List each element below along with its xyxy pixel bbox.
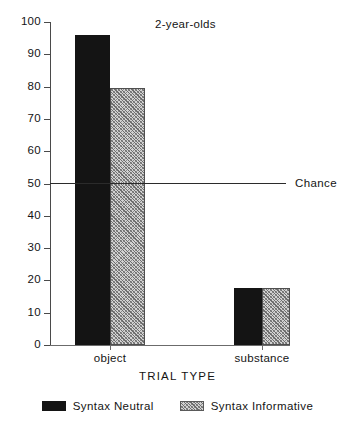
legend-label: Syntax Informative: [211, 400, 313, 412]
bar-object-syntax-neutral: [75, 35, 110, 345]
legend-item-syntax-neutral: Syntax Neutral: [42, 400, 154, 412]
x-category-label-object: object: [50, 352, 170, 364]
chance-line-label: Chance: [295, 177, 337, 189]
x-axis-line: [50, 345, 290, 346]
y-tick-label-10: 10: [5, 307, 41, 319]
chart-figure: 2-year-olds 0102030405060708090100 Chanc…: [0, 0, 355, 429]
y-tick-label-40: 40: [5, 210, 41, 222]
x-tick-substance: [262, 345, 263, 350]
legend-swatch-solid: [42, 401, 66, 411]
y-tick-label-0: 0: [5, 339, 41, 351]
legend-item-syntax-informative: Syntax Informative: [180, 400, 313, 412]
y-tick-label-90: 90: [5, 48, 41, 60]
x-tick-object: [110, 345, 111, 350]
y-tick-label-70: 70: [5, 113, 41, 125]
legend-swatch-hatched: [180, 401, 204, 411]
legend-label: Syntax Neutral: [73, 400, 154, 412]
bar-substance-syntax-neutral: [234, 288, 262, 345]
x-axis-title: TRIAL TYPE: [0, 370, 355, 382]
y-tick-label-80: 80: [5, 81, 41, 93]
x-category-label-substance: substance: [202, 352, 322, 364]
y-tick-label-30: 30: [5, 242, 41, 254]
y-tick-label-100: 100: [5, 16, 41, 28]
chart-legend: Syntax NeutralSyntax Informative: [0, 400, 355, 412]
bar-object-syntax-informative: [110, 88, 145, 345]
chance-line: [50, 183, 286, 185]
y-tick-label-50: 50: [5, 178, 41, 190]
y-tick-label-60: 60: [5, 145, 41, 157]
y-tick-label-20: 20: [5, 274, 41, 286]
bar-substance-syntax-informative: [262, 288, 290, 345]
y-tick-0: [44, 345, 50, 346]
